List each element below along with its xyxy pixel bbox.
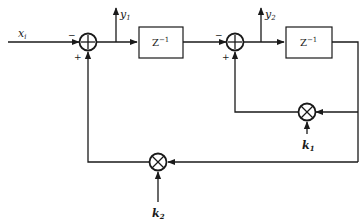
adder1-minus-sign: − xyxy=(68,30,76,40)
input-signal: xi − xyxy=(8,27,79,42)
delay2-box: Z−1 xyxy=(286,27,332,58)
output-y1: y1 xyxy=(116,8,131,42)
adder1-plus-sign: + xyxy=(74,52,82,62)
block-diagram: xi − + y1 Z−1 − + y2 Z−1 xyxy=(0,0,363,223)
delay1-box: Z−1 xyxy=(139,27,183,58)
svg-text:y1: y1 xyxy=(119,8,131,22)
gain-k1: k1 xyxy=(302,122,315,153)
adder1: + xyxy=(74,34,97,63)
svg-text:k2: k2 xyxy=(152,207,165,221)
adder2-minus-sign: − xyxy=(215,30,223,40)
adder2-plus-sign: + xyxy=(222,52,230,62)
multiplier-k2 xyxy=(150,154,167,171)
gain-k2: k2 xyxy=(152,172,165,221)
input-label: xi xyxy=(18,27,26,41)
svg-text:k1: k1 xyxy=(302,139,315,153)
svg-text:y2: y2 xyxy=(264,8,276,22)
output-y2: y2 xyxy=(261,8,276,42)
adder2: + xyxy=(222,34,244,63)
multiplier-k1 xyxy=(299,104,316,121)
